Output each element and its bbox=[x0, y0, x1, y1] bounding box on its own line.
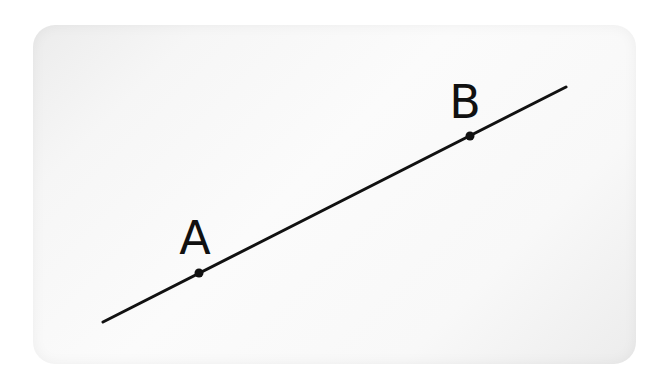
line-ab bbox=[103, 87, 566, 322]
point-b bbox=[466, 132, 475, 141]
line-diagram: A B bbox=[0, 0, 668, 388]
point-a bbox=[195, 269, 204, 278]
label-a: A bbox=[179, 211, 211, 265]
label-b: B bbox=[449, 75, 481, 129]
